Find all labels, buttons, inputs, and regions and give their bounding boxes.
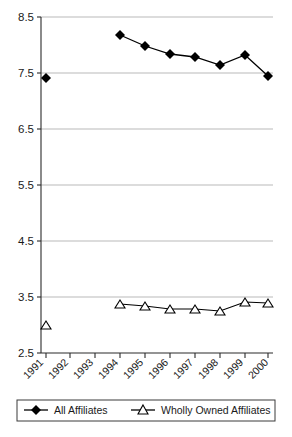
chart-legend: All Affiliates Wholly Owned Affiliates — [17, 400, 275, 421]
y-axis-ticks — [37, 17, 41, 353]
legend-label-all-affiliates: All Affiliates — [54, 404, 108, 416]
y-tick-label-3: 5.5 — [18, 179, 34, 191]
y-axis-labels: 8.5 7.5 6.5 5.5 4.5 3.5 2.5 — [18, 11, 34, 359]
x-tick-label-1998: 1998 — [195, 356, 220, 381]
x-tick-label-1999: 1999 — [220, 356, 245, 381]
x-tick-label-1993: 1993 — [70, 356, 95, 381]
y-tick-label-0: 8.5 — [18, 11, 34, 23]
y-tick-label-6: 2.5 — [18, 347, 34, 359]
legend-label-wholly-owned-affiliates: Wholly Owned Affiliates — [161, 404, 271, 416]
legend-entry-all-affiliates[interactable]: All Affiliates — [24, 404, 108, 416]
x-axis-labels: 1991 1992 1993 1994 1995 1996 1997 1998 … — [20, 356, 270, 381]
x-tick-label-1991: 1991 — [20, 356, 45, 381]
x-tick-label-1992: 1992 — [45, 356, 70, 381]
x-tick-label-1997: 1997 — [170, 356, 195, 381]
x-tick-label-1995: 1995 — [120, 356, 145, 381]
x-tick-label-1996: 1996 — [145, 356, 170, 381]
y-tick-label-1: 7.5 — [18, 67, 34, 79]
y-tick-label-5: 3.5 — [18, 291, 34, 303]
y-tick-label-4: 4.5 — [18, 235, 34, 247]
line-chart-figure: 8.5 7.5 6.5 5.5 4.5 3.5 2.5 1991 1992 19… — [0, 0, 292, 437]
x-tick-label-2000: 2000 — [245, 356, 270, 381]
y-tick-label-2: 6.5 — [18, 123, 34, 135]
x-tick-label-1994: 1994 — [95, 356, 120, 381]
chart-container: 8.5 7.5 6.5 5.5 4.5 3.5 2.5 1991 1992 19… — [0, 0, 292, 437]
